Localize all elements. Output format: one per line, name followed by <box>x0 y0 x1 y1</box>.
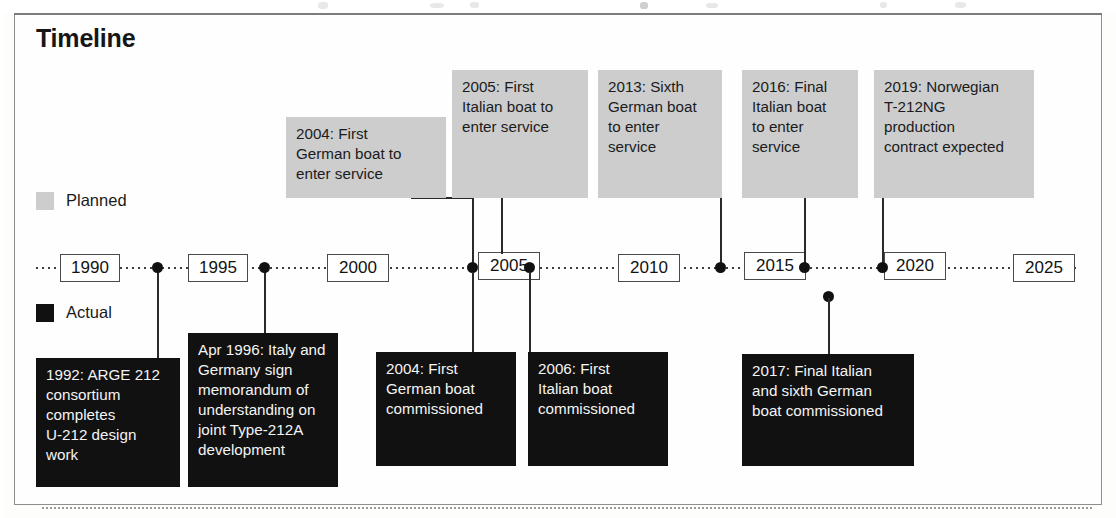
connector-2017-actual <box>828 298 830 354</box>
axis-tick-2000: 2000 <box>327 254 389 282</box>
page-title: Timeline <box>36 24 135 53</box>
planned-event-box-2005: 2005: First Italian boat to enter servic… <box>452 70 588 198</box>
actual-event-box-2004: 2004: First German boat commissioned <box>376 352 516 466</box>
axis-tick-1995: 1995 <box>188 254 248 282</box>
legend-label-actual: Actual <box>66 303 112 322</box>
planned-event-box-2013: 2013: Sixth German boat to enter service <box>598 70 722 198</box>
axis-dot-1992 <box>152 262 163 273</box>
connector-2013-planned <box>720 197 722 265</box>
axis-dot-2016 <box>799 262 810 273</box>
connector-2019-planned <box>882 197 884 265</box>
connector-1992 <box>157 272 159 360</box>
actual-event-box-2006: 2006: First Italian boat commissioned <box>528 352 668 466</box>
connector-2006-actual <box>529 272 531 352</box>
actual-event-box-2017: 2017: Final Italian and sixth German boa… <box>742 354 914 466</box>
axis-dot-2013 <box>715 262 726 273</box>
connector-2004-actual <box>472 272 474 352</box>
axis-tick-2015: 2015 <box>744 252 806 280</box>
planned-event-box-2016: 2016: Final Italian boat to enter servic… <box>742 70 858 198</box>
planned-event-box-2004: 2004: First German boat to enter service <box>286 117 446 198</box>
figure-frame-top-rule <box>14 13 1102 15</box>
page-edge-left <box>0 0 4 518</box>
legend-label-planned: Planned <box>66 191 127 210</box>
scan-artifact-strip <box>0 0 1116 13</box>
legend-swatch-planned <box>36 192 54 210</box>
connector-2016-planned <box>804 197 806 265</box>
legend-item-actual: Actual <box>36 303 112 322</box>
connector-2005-planned <box>501 198 503 254</box>
legend-swatch-actual <box>36 304 54 322</box>
axis-dot-1996 <box>259 262 270 273</box>
axis-tick-2010: 2010 <box>618 254 680 282</box>
legend-item-planned: Planned <box>36 191 127 210</box>
page-bottom-rule <box>42 507 1092 509</box>
connector-1996 <box>264 272 266 334</box>
axis-dot-2019 <box>877 262 888 273</box>
actual-event-box-1992: 1992: ARGE 212 consortium completes U-21… <box>36 358 180 487</box>
planned-event-box-2019: 2019: Norwegian T-212NG production contr… <box>874 70 1034 198</box>
axis-tick-1990: 1990 <box>60 254 120 282</box>
axis-tick-2020: 2020 <box>884 252 946 280</box>
actual-event-box-1996: Apr 1996: Italy and Germany sign memoran… <box>188 333 338 487</box>
axis-tick-2025: 2025 <box>1013 254 1075 282</box>
timeline-infographic: Timeline Planned Actual 1990 1995 2000 2… <box>0 0 1116 518</box>
